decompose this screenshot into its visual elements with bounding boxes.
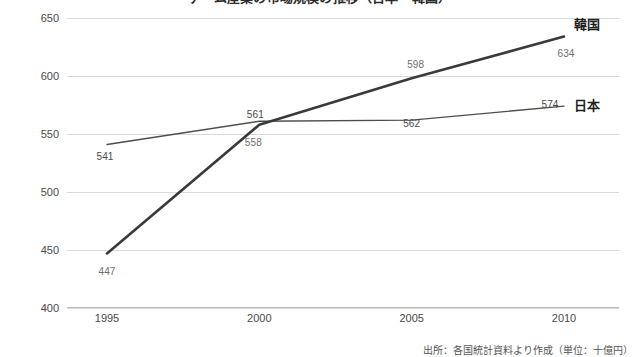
point-label-韓国-2010: 634	[558, 47, 575, 58]
y-tick-label-550: 550	[15, 128, 59, 140]
y-tick-label-650: 650	[15, 12, 59, 24]
x-tick-label-2000: 2000	[247, 312, 271, 324]
y-tick-label-600: 600	[15, 70, 59, 82]
x-tick-label-2010: 2010	[552, 312, 576, 324]
series-line-日本	[107, 106, 564, 144]
point-label-日本-2010: 574	[542, 99, 559, 110]
y-tick-label-450: 450	[15, 244, 59, 256]
point-label-韓国-2005: 598	[407, 59, 424, 70]
x-tick-label-2005: 2005	[399, 312, 423, 324]
y-axis: 400450500550600650	[0, 18, 67, 308]
x-tick-label-1995: 1995	[95, 312, 119, 324]
gridline-400	[67, 308, 619, 309]
x-axis: 1995200020052010	[67, 312, 619, 332]
point-label-韓国-1995: 447	[99, 266, 116, 277]
series-lines	[67, 18, 619, 308]
point-label-韓国-2000: 558	[245, 136, 262, 147]
series-label-韓国: 韓国	[574, 13, 600, 32]
chart-title: ゲーム産業の市場規模の推移（日本・韓国）	[0, 0, 639, 5]
plot-area: 541561562574447558598634 日本韓国	[67, 18, 619, 308]
series-label-日本: 日本	[574, 95, 600, 114]
y-tick-label-400: 400	[15, 302, 59, 314]
series-line-韓国	[107, 37, 564, 254]
y-tick-label-500: 500	[15, 186, 59, 198]
point-label-日本-2005: 562	[403, 118, 420, 129]
chart-footnote: 出所：各国統計資料より作成（単位：十億円）	[0, 345, 639, 357]
point-label-日本-2000: 561	[247, 109, 264, 120]
point-label-日本-1995: 541	[97, 151, 114, 162]
